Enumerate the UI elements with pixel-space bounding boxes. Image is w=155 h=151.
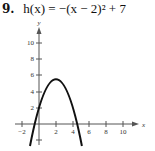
y-tick-label: 6 (31, 71, 35, 79)
y-tick-label: 4 (31, 88, 35, 96)
x-tick-label: 8 (104, 128, 108, 136)
x-tick-label: 6 (87, 128, 91, 136)
y-tick-label: 2 (31, 104, 35, 112)
x-axis-arrow-icon (132, 122, 139, 127)
x-tick-label: 2 (54, 128, 58, 136)
y-tick-label: 8 (31, 55, 35, 63)
parabola-graph: −2 2 4 6 8 10 2 4 6 8 10 x y (0, 0, 155, 151)
y-axis-arrow-icon (37, 27, 42, 34)
x-tick-label: 4 (71, 128, 75, 136)
x-tick-label: −2 (18, 128, 26, 136)
y-axis-label: y (36, 19, 41, 27)
x-tick-label: 10 (120, 128, 128, 136)
y-tick-label: 10 (27, 39, 35, 47)
x-axis-label: x (141, 121, 146, 129)
